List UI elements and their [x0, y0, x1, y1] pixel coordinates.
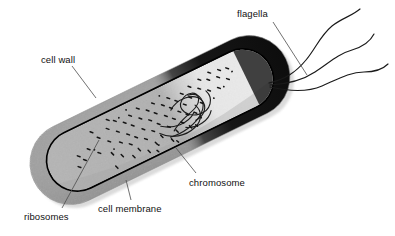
label-cell-wall: cell wall — [41, 54, 75, 65]
label-cell-membrane: cell membrane — [98, 203, 162, 214]
label-flagella: flagella — [237, 8, 268, 19]
label-ribosomes: ribosomes — [24, 211, 69, 222]
bacterial-cell-diagram — [0, 0, 395, 236]
label-chromosome: chromosome — [189, 177, 245, 188]
